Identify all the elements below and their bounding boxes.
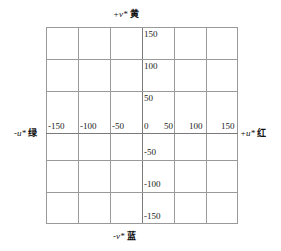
plot-area: -150 -100 -50 0 50 100 150 150 100 50 -5…: [46, 27, 238, 224]
y-tick-label-minus-150: -150: [144, 211, 161, 221]
gridline-horizontal-y-100: [46, 59, 238, 60]
gridline-vertical-x-50: [174, 27, 175, 224]
y-tick-label-50: 50: [144, 93, 153, 103]
x-axis-line: [46, 133, 238, 134]
x-tick-label-50: 50: [164, 121, 173, 131]
axis-label-top-symbol: +v*: [113, 9, 128, 19]
gridline-horizontal-y-50: [46, 91, 238, 92]
y-tick-label-minus-100: -100: [144, 179, 161, 189]
x-tick-label-100: 100: [189, 121, 203, 131]
axis-label-top-yellow: +v*黄: [113, 9, 139, 20]
axis-label-left-symbol: -u*: [14, 128, 26, 138]
axis-label-top-chinese: 黄: [128, 9, 139, 19]
cie-luv-chromaticity-chart: -150 -100 -50 0 50 100 150 150 100 50 -5…: [0, 0, 281, 251]
y-tick-label-minus-50: -50: [144, 147, 156, 157]
y-axis-line: [142, 27, 143, 224]
axis-label-right-symbol: +u*: [240, 128, 255, 138]
x-tick-label-zero: 0: [144, 121, 149, 131]
y-tick-label-100: 100: [144, 61, 158, 71]
axis-label-bottom-symbol: -v*: [113, 231, 125, 241]
gridline-horizontal-y-minus-100: [46, 192, 238, 193]
axis-label-bottom-blue: -v*蓝: [113, 231, 136, 242]
gridline-vertical-x-minus-100: [78, 27, 79, 224]
gridline-horizontal-y-150: [46, 27, 238, 28]
axis-label-left-chinese: 绿: [26, 128, 37, 138]
axis-label-bottom-chinese: 蓝: [125, 231, 136, 241]
y-tick-label-150: 150: [144, 29, 158, 39]
gridline-horizontal-y-minus-150: [46, 223, 238, 224]
gridline-vertical-x-150: [237, 27, 238, 224]
x-tick-label-minus-50: -50: [112, 121, 124, 131]
gridline-vertical-x-100: [206, 27, 207, 224]
x-tick-label-minus-100: -100: [80, 121, 97, 131]
axis-label-left-green: -u*绿: [14, 128, 37, 139]
gridline-horizontal-y-minus-50: [46, 160, 238, 161]
x-tick-label-150: 150: [221, 121, 235, 131]
axis-label-right-red: +u*红: [240, 128, 266, 139]
gridline-vertical-x-minus-150: [46, 27, 47, 224]
x-tick-label-minus-150: -150: [48, 121, 65, 131]
gridline-vertical-x-minus-50: [110, 27, 111, 224]
axis-label-right-chinese: 红: [255, 128, 266, 138]
